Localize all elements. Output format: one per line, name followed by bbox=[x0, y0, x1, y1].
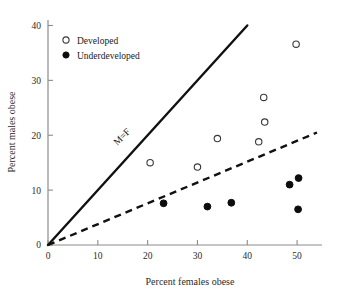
series-underdeveloped-points bbox=[160, 175, 302, 213]
y-axis-tick-labels: 010203040 bbox=[32, 21, 42, 251]
data-point-developed bbox=[293, 41, 299, 47]
axes-group: 010203040 01020304050 bbox=[32, 20, 323, 261]
y-tick-label: 20 bbox=[32, 131, 42, 141]
data-point-developed bbox=[214, 135, 220, 141]
data-point-developed bbox=[256, 139, 262, 145]
y-axis-ticks bbox=[48, 25, 53, 245]
data-point-underdeveloped bbox=[228, 199, 235, 206]
data-point-developed bbox=[261, 94, 267, 100]
chart-figure: 010203040 01020304050 M=F Percent female… bbox=[0, 0, 340, 292]
scatter-plot-svg: 010203040 01020304050 M=F Percent female… bbox=[0, 0, 340, 292]
y-tick-label: 10 bbox=[32, 186, 42, 196]
legend-marker-open-circle bbox=[63, 37, 69, 43]
x-axis-ticks bbox=[48, 240, 297, 245]
data-point-underdeveloped bbox=[160, 200, 167, 207]
x-tick-label: 10 bbox=[93, 251, 103, 261]
reference-line-fit bbox=[48, 133, 317, 246]
x-axis-title: Percent females obese bbox=[146, 276, 235, 287]
legend-marker-filled-circle bbox=[63, 52, 69, 58]
legend-label-underdeveloped: Underdeveloped bbox=[77, 51, 140, 61]
data-point-developed bbox=[262, 119, 268, 125]
data-point-developed bbox=[147, 159, 153, 165]
legend-label-developed: Developed bbox=[77, 36, 118, 46]
series-developed-points bbox=[147, 41, 299, 170]
data-point-underdeveloped bbox=[295, 175, 302, 182]
x-tick-label: 20 bbox=[143, 251, 153, 261]
x-tick-label: 50 bbox=[292, 251, 302, 261]
y-axis-title: Percent males obese bbox=[6, 91, 17, 173]
x-tick-label: 30 bbox=[193, 251, 203, 261]
data-point-underdeveloped bbox=[295, 206, 302, 213]
legend: Developed Underdeveloped bbox=[63, 36, 140, 61]
mf-line-label: M=F bbox=[112, 127, 133, 147]
y-tick-label: 0 bbox=[36, 240, 41, 250]
x-tick-label: 40 bbox=[243, 251, 253, 261]
x-axis-tick-labels: 01020304050 bbox=[46, 251, 302, 261]
x-tick-label: 0 bbox=[46, 251, 51, 261]
y-tick-label: 40 bbox=[32, 21, 42, 31]
y-tick-label: 30 bbox=[32, 76, 42, 86]
data-point-underdeveloped bbox=[286, 181, 293, 188]
data-point-underdeveloped bbox=[204, 203, 211, 210]
data-point-developed bbox=[194, 164, 200, 170]
